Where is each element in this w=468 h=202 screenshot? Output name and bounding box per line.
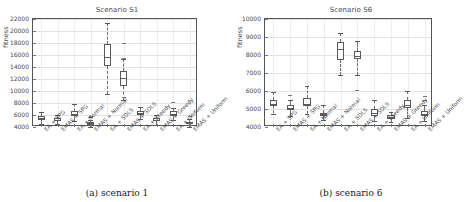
chart-title: Scenario S6 [234, 6, 468, 14]
y-tick-label: 9000 [234, 33, 261, 40]
y-tick-label: 4000 [234, 123, 261, 130]
x-tick-label: EMAS + SPG [292, 128, 296, 132]
x-tick-mark [425, 124, 426, 127]
x-tick-label: EA + Normal [76, 128, 80, 132]
x-tick-label: EMAS + Normal [93, 128, 97, 132]
x-tick-label: EA + Greedy [142, 128, 146, 132]
boxplot-figure: Scenario S1 fitness (a) scenario 1 40006… [0, 0, 468, 202]
y-tick-mark [265, 127, 268, 128]
y-tick-label: 6000 [0, 111, 29, 118]
y-tick-label: 20000 [0, 27, 29, 34]
y-tick-label: 10000 [0, 87, 29, 94]
x-tick-label: EMAS + Normal [326, 128, 330, 132]
y-tick-label: 8000 [0, 99, 29, 106]
x-tick-label: EMAS + SDLS [359, 128, 363, 132]
y-tick-label: 16000 [0, 51, 29, 58]
panel-caption: (a) scenario 1 [0, 188, 234, 198]
x-tick-label: EA + Uniform [410, 128, 414, 132]
y-tick-label: 10000 [234, 15, 261, 22]
y-tick-label: 5000 [234, 105, 261, 112]
y-tick-label: 18000 [0, 39, 29, 46]
y-tick-label: 6000 [234, 87, 261, 94]
x-tick-label: EA + Greedy [376, 128, 380, 132]
x-tick-label: EMAS + SDLS [126, 128, 130, 132]
x-tick-label: EMAS + Uniform [192, 128, 196, 132]
x-tick-label: EMAS + Greedy [159, 128, 163, 132]
y-tick-label: 7000 [234, 69, 261, 76]
x-tick-label: EA + Normal [309, 128, 313, 132]
x-tick-label: EA + SDLS [109, 128, 113, 132]
chart-title: Scenario S1 [0, 6, 234, 14]
y-tick-mark [33, 127, 36, 128]
x-tick-label: EA + SPG [43, 128, 47, 132]
panel-caption: (b) scenario 6 [234, 188, 468, 198]
panel-scenario-1: Scenario S1 fitness (a) scenario 1 40006… [0, 0, 234, 202]
y-tick-label: 14000 [0, 63, 29, 70]
y-tick-label: 22000 [0, 15, 29, 22]
y-tick-label: 12000 [0, 75, 29, 82]
x-tick-label: EMAS + Uniform [427, 128, 431, 132]
x-tick-label: EA + Uniform [175, 128, 179, 132]
y-tick-label: 8000 [234, 51, 261, 58]
panel-scenario-6: Scenario S6 fitness (b) scenario 6 40005… [234, 0, 468, 202]
x-tick-label: EA + SPG [275, 128, 279, 132]
y-tick-label: 4000 [0, 123, 29, 130]
x-tick-label: EMAS + Greedy [393, 128, 397, 132]
x-tick-mark [190, 124, 191, 127]
x-tick-label: EA + SDLS [343, 128, 347, 132]
x-tick-label: EMAS + SPG [60, 128, 64, 132]
